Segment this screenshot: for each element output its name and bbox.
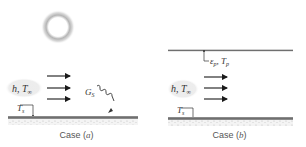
flow-arrows [204, 77, 227, 99]
parallel-plate [168, 49, 293, 61]
case-b-panel: εp, Tp h, T∞ Ts Case (b) [153, 0, 306, 147]
surface-temp-label-b: Ts [177, 105, 185, 116]
irradiation-label: GS [85, 87, 95, 98]
plate-label: εp, Tp [210, 56, 229, 67]
sun-icon [41, 10, 75, 44]
surface [8, 116, 138, 125]
case-b-caption: Case (b) [153, 130, 306, 140]
flow-arrows [47, 76, 70, 99]
case-b-diagram: εp, Tp h, T∞ Ts [153, 0, 306, 147]
case-a-panel: h, T∞ Ts GS Case (a) [0, 0, 153, 147]
irradiation-arrow [97, 85, 114, 113]
case-a-caption: Case (a) [0, 130, 153, 140]
surface [168, 117, 293, 126]
case-a-diagram: h, T∞ Ts GS [0, 0, 153, 147]
